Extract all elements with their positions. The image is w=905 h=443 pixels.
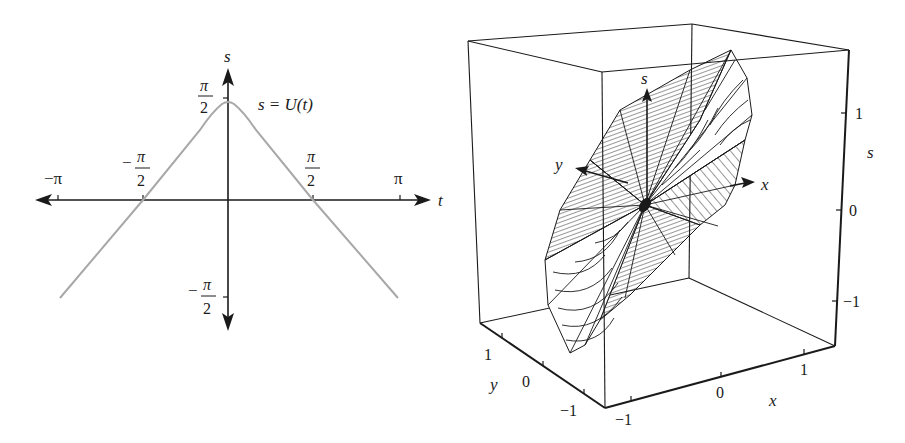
y-arrow-icon [575,166,589,176]
y-arrow-label: y [553,155,563,174]
x-axis-title: x [768,391,777,410]
y-tick-neg1: −1 [560,402,577,419]
svg-text:π: π [137,148,146,165]
tick-label-neg-half-pi-t: − π 2 [122,148,150,189]
svg-text:2: 2 [137,172,145,189]
s-arrow-label: s [641,69,648,88]
t-axis-label: t [438,191,444,210]
left-plot-2d: s t s = U(t) −π π − π 2 π 2 π 2 − π 2 [0,0,460,443]
y-axis-title: y [488,375,498,394]
y-tick-1: 1 [484,346,492,363]
tick-label-pi: π [394,169,403,188]
svg-text:2: 2 [200,99,208,116]
x-arrow-icon [741,177,755,188]
x-tick-neg1: −1 [615,411,632,428]
curve-label: s = U(t) [258,95,313,114]
svg-text:π: π [203,276,212,293]
s-tick-1: 1 [855,105,863,122]
s-axis-title: s [867,143,874,162]
y-tick-0: 0 [522,373,530,390]
x-arrow-label: x [760,175,769,194]
svg-text:π: π [307,148,316,165]
tick-label-neg-pi: −π [44,169,63,188]
x-tick-1: 1 [800,361,808,378]
central-axes [582,98,745,205]
box-back-edges [468,24,849,346]
s-axis-ticks [832,113,846,301]
svg-text:−: − [188,281,198,300]
tick-label-half-pi-t: π 2 [305,148,320,189]
s-tick-0: 0 [849,202,857,219]
s-axis-label: s [224,47,231,66]
x-axis-ticks [631,349,804,401]
y-axis-ticks [502,333,584,394]
tick-label-neg-half-pi-s: − π 2 [188,276,216,317]
box-front-edges [468,41,849,408]
svg-text:π: π [200,77,209,94]
svg-text:2: 2 [307,172,315,189]
s-tick-neg1: −1 [843,293,860,310]
s-arrow-icon [642,88,652,102]
x-tick-0: 0 [716,384,724,401]
svg-text:2: 2 [203,300,211,317]
surface-mesh [545,50,752,353]
svg-text:−: − [122,153,132,172]
tick-label-half-pi-s: π 2 [198,77,213,116]
